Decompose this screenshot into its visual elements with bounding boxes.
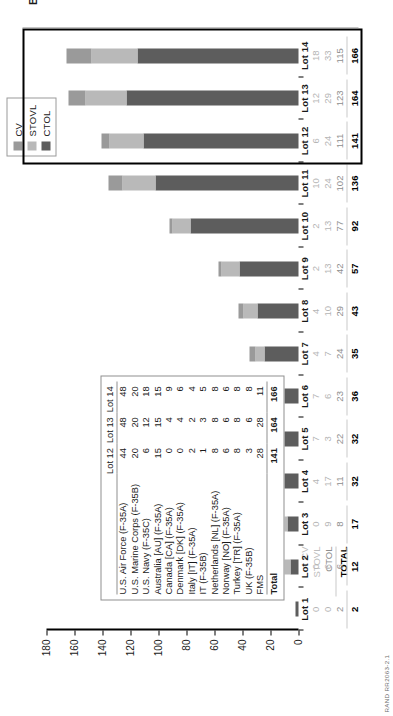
- table-row: UK (F-35B)368: [243, 381, 254, 594]
- table-cell-name: UK (F-35B): [243, 473, 254, 594]
- table-cell-name: U.S. Navy (F-35C): [140, 473, 151, 594]
- lot-value-total: 12: [346, 547, 360, 585]
- table-cell-value: 4: [163, 412, 174, 443]
- y-axis-tick: [130, 630, 131, 635]
- lot-value-stovl: 17: [321, 462, 333, 500]
- lot-value-total: 35: [346, 334, 360, 372]
- table-row: Norway [NO] (F-35A)666: [220, 381, 231, 594]
- table-cell-value: 8: [209, 381, 220, 412]
- y-axis-tick-label: 140: [97, 639, 107, 656]
- table-col-header: Lot 14: [104, 381, 117, 412]
- lot-value-ctol: 29: [333, 292, 345, 330]
- lot-value-total: 166: [346, 36, 360, 74]
- table-cell-value: 20: [129, 443, 140, 474]
- table-cell-name: Netherlands [NL] (F-35A): [209, 473, 220, 594]
- lot-value-total: 57: [346, 249, 360, 287]
- bar-segment-cv: [218, 261, 221, 276]
- lot-value-total: 36: [346, 377, 360, 415]
- lot-label: Lot 13: [298, 79, 309, 117]
- lot-value-total: 141: [346, 121, 360, 159]
- table-row: Denmark [DK] (F-35A)046: [174, 381, 185, 594]
- lot-value-stovl: 3: [321, 419, 333, 457]
- y-axis-tick-label: 20: [265, 639, 275, 650]
- bar-segment-stovl: [85, 90, 126, 105]
- lot-value-ctol: 2: [333, 590, 345, 628]
- lot-label: Lot 2: [298, 547, 309, 585]
- bar-segment-stovl: [122, 176, 156, 191]
- lot-column-11: Lot 111024102136: [298, 164, 360, 202]
- legend-item-stovl: STOVL: [25, 104, 37, 150]
- table-cell-value: 3: [197, 412, 208, 443]
- table-cell-value: 3: [243, 443, 254, 474]
- lot-value-stovl: 33: [321, 36, 333, 74]
- lot-column-7: Lot 7472435: [298, 334, 360, 372]
- legend-label: CV: [12, 122, 23, 136]
- y-axis-tick-label: 160: [69, 639, 79, 656]
- lot-label: Lot 11: [298, 164, 309, 202]
- figure-page: CVSTOVLCTOL Number of aircraft 020406080…: [0, 0, 393, 716]
- lot-value-stovl: 0: [321, 590, 333, 628]
- lot-label: Lot 7: [298, 334, 309, 372]
- table-cell-value: 15: [152, 412, 163, 443]
- y-axis-tick: [186, 630, 187, 635]
- bar-segment-ctol: [290, 559, 298, 574]
- table-cell-value: 48: [117, 412, 129, 443]
- bar-chart-figure: CVSTOVLCTOL Number of aircraft 020406080…: [0, 0, 393, 716]
- lot-column-8: Lot 84102943: [298, 292, 360, 330]
- table-cell-value: 2: [186, 412, 197, 443]
- table-cell-name: Canada [CA] (F-35A): [163, 473, 174, 594]
- lot-value-total: 164: [346, 79, 360, 117]
- highlight-title: BB quantities Total: 471: [26, 0, 52, 24]
- lot-label: Lot 12: [298, 121, 309, 159]
- lot-column-2: Lot 206612: [298, 547, 360, 585]
- bar-segment-cv: [66, 48, 91, 63]
- table-cell-value: 28: [254, 412, 266, 443]
- lot-value-stovl: 6: [321, 547, 333, 585]
- y-axis-tick: [74, 630, 75, 635]
- bar-segment-ctol: [283, 474, 298, 489]
- bar-segment-stovl: [255, 346, 265, 361]
- lot-value-ctol: 23: [333, 377, 345, 415]
- y-axis-tick-label: 0: [293, 639, 303, 645]
- table-cell-name: FMS: [254, 473, 266, 594]
- lot-value-ctol: 111: [333, 121, 345, 159]
- table-header-row: Lot 12Lot 13Lot 14: [104, 381, 117, 594]
- table-cell-value: 141: [266, 443, 279, 474]
- table-cell-value: 44: [117, 443, 129, 474]
- table-row: Australia [AU] (F-35A)151515: [152, 381, 163, 594]
- y-axis-tick: [242, 630, 243, 635]
- lot-value-ctol: 22: [333, 419, 345, 457]
- y-axis-tick-label: 40: [237, 639, 247, 650]
- breakdown-table: Lot 12Lot 13Lot 14 U.S. Air Force (F-35A…: [100, 375, 284, 600]
- bar-segment-ctol: [257, 303, 298, 318]
- table-cell-value: 6: [220, 412, 231, 443]
- lot-column-3: Lot 309817: [298, 505, 360, 543]
- lot-value-ctol: 24: [333, 334, 345, 372]
- lot-column-6: Lot 6762336: [298, 377, 360, 415]
- lot-label: Lot 6: [298, 377, 309, 415]
- y-axis-tick: [298, 630, 299, 635]
- y-axis-tick: [214, 630, 215, 635]
- legend-swatch-icon: [13, 141, 22, 150]
- table-cell-value: 12: [140, 412, 151, 443]
- lot-column-13: Lot 131229123164: [298, 79, 360, 117]
- table-cell-value: 8: [231, 412, 242, 443]
- lot-value-stovl: 24: [321, 121, 333, 159]
- table-cell-name: Denmark [DK] (F-35A): [174, 473, 185, 594]
- lot-value-stovl: 10: [321, 292, 333, 330]
- rotated-figure-wrapper: CVSTOVLCTOL Number of aircraft 020406080…: [0, 0, 393, 716]
- table-cell-value: 8: [209, 443, 220, 474]
- y-axis-tick: [158, 630, 159, 635]
- bar-segment-cv: [108, 176, 122, 191]
- table-col-header: Lot 13: [104, 412, 117, 443]
- y-axis-tick: [102, 630, 103, 635]
- y-axis-tick-label: 60: [209, 639, 219, 650]
- category-axis-labels: CV STOVL CTOL TOTAL Lot 10022Lot 206612L…: [298, 34, 384, 630]
- table-cell-value: 6: [243, 412, 254, 443]
- table-row: Italy [IT] (F-35A)224: [186, 381, 197, 594]
- source-note: RAND RR2063-2.1: [382, 654, 389, 712]
- table-cell-name: Turkey [TR] (F-35A): [231, 473, 242, 594]
- lot-value-stovl: 6: [321, 377, 333, 415]
- legend-label: STOVL: [26, 104, 37, 136]
- lot-value-cv: 6: [309, 121, 321, 159]
